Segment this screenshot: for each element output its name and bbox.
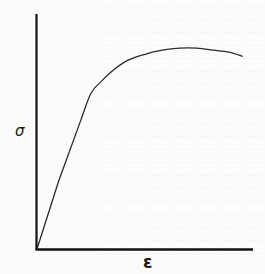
x-axis-label-epsilon: ε <box>143 252 152 272</box>
figure-page: ········································… <box>0 0 265 274</box>
y-axis-label-sigma: σ <box>15 122 25 140</box>
stress-strain-plot <box>0 0 265 274</box>
stress-strain-curve <box>37 48 242 249</box>
